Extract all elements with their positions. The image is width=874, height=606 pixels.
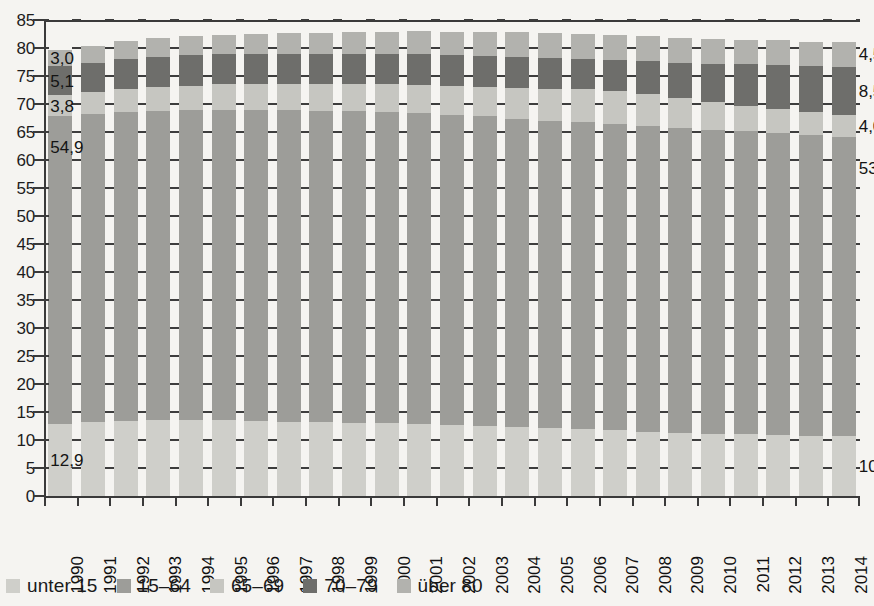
bar-1994[interactable] [179,20,203,496]
gridline-dash [627,75,636,77]
bar-2001[interactable] [407,20,431,496]
gridline-dash [627,299,636,301]
x-axis-tick [109,496,111,506]
y-axis-tick-label: 85 [2,12,35,29]
y-axis-tick-label: 35 [2,292,35,309]
gridline-dash [431,411,440,413]
bar-2007[interactable] [603,20,627,496]
gridline-dash [725,159,734,161]
bar-2005[interactable] [538,20,562,496]
gridline-dash [44,439,49,441]
gridline-dash [203,271,212,273]
gridline-dash [268,271,277,273]
bar-1997[interactable] [277,20,301,496]
bar-1999[interactable] [342,20,366,496]
gridline-dash [301,271,310,273]
value-label: 4,0 [859,117,874,137]
bar-2010[interactable] [701,20,725,496]
bar-2002[interactable] [440,20,464,496]
segment-unter-15 [309,422,333,496]
gridline-dash [399,103,408,105]
legend-item-70–79[interactable]: 70–79 [303,575,377,597]
gridline-dash [692,19,701,21]
gridline-dash [236,411,245,413]
segment-65–69 [81,92,105,114]
x-axis-tick [207,496,209,506]
gridline-dash [758,439,767,441]
gridline-dash [203,187,212,189]
legend-swatch-icon [303,579,317,593]
bar-2013[interactable] [799,20,823,496]
segment-über-80 [342,32,366,54]
y-axis-tick [33,131,44,133]
gridline-dash [660,439,669,441]
bar-1995[interactable] [212,20,236,496]
gridline-dash [692,271,701,273]
bar-2003[interactable] [473,20,497,496]
gridline-dash [660,215,669,217]
gridline-dash [823,131,832,133]
legend-item-15–64[interactable]: 15–64 [117,575,191,597]
segment-70–79 [342,54,366,84]
gridline-dash [333,243,342,245]
x-axis-line [44,496,860,498]
bar-1991[interactable] [81,20,105,496]
gridline-dash [170,215,179,217]
segment-15–64 [571,122,595,429]
y-axis-tick-label: 40 [2,264,35,281]
bar-2008[interactable] [636,20,660,496]
gridline-dash [529,439,538,441]
segment-15–64 [48,116,72,423]
gridline-dash [790,327,799,329]
segment-unter-15 [538,428,562,496]
x-axis-tick [370,496,372,506]
gridline-dash [44,131,49,133]
gridline-dash [758,383,767,385]
gridline-dash [464,411,473,413]
gridline-dash [170,439,179,441]
legend-item-unter-15[interactable]: unter 15 [6,575,98,597]
gridline-dash [333,355,342,357]
bar-2009[interactable] [668,20,692,496]
gridline-dash [758,19,767,21]
gridline-dash [72,215,81,217]
bar-2014[interactable] [832,20,856,496]
gridline-dash [236,103,245,105]
legend-item-65–69[interactable]: 65–69 [210,575,284,597]
gridline-dash [529,243,538,245]
x-axis-tick [142,496,144,506]
legend-label: über 80 [418,575,483,597]
gridline-dash [660,411,669,413]
gridline-dash [170,47,179,49]
segment-65–69 [668,98,692,128]
bar-1998[interactable] [309,20,333,496]
gridline-dash [399,439,408,441]
gridline-dash [790,159,799,161]
gridline-dash [170,131,179,133]
gridline-dash [595,327,604,329]
bar-2011[interactable] [734,20,758,496]
segment-unter-15 [440,425,464,496]
bar-2004[interactable] [505,20,529,496]
gridline-dash [856,299,860,301]
gridline-dash [790,131,799,133]
gridline-dash [823,215,832,217]
bar-1992[interactable] [114,20,138,496]
gridline-dash [138,215,147,217]
gridline-dash [529,159,538,161]
bar-2012[interactable] [766,20,790,496]
bar-1993[interactable] [146,20,170,496]
bar-2006[interactable] [571,20,595,496]
gridline-dash [725,19,734,21]
bar-1996[interactable] [244,20,268,496]
legend-label: 70–79 [324,575,377,597]
segment-70–79 [277,54,301,84]
gridline-dash [823,355,832,357]
gridline-dash [497,271,506,273]
bar-2000[interactable] [375,20,399,496]
legend-item-über-80[interactable]: über 80 [397,575,483,597]
segment-70–79 [701,64,725,102]
gridline-dash [497,131,506,133]
gridline-dash [399,215,408,217]
segment-15–64 [179,110,203,420]
